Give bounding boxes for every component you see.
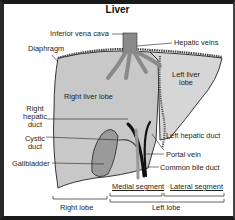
label-left-hepatic-duct: Left hepatic duct bbox=[166, 132, 220, 140]
label-left-liver-lobe: Left liver lobe bbox=[168, 71, 204, 87]
label-medial-segment: Medial segment bbox=[112, 183, 164, 191]
label-diaphragm: Diaphragm bbox=[28, 45, 64, 53]
inferior-vena-cava-shape bbox=[123, 33, 137, 53]
label-portal-vein: Portal vein bbox=[166, 151, 201, 159]
label-right-liver-lobe: Right liver lobe bbox=[64, 93, 113, 101]
label-lateral-segment: Lateral segment bbox=[170, 183, 223, 191]
label-left-lobe: Left lobe bbox=[152, 204, 180, 212]
label-gallbladder: Gallbladder bbox=[12, 160, 50, 168]
label-inferior-vena-cava: Inferior vena cava bbox=[50, 30, 109, 38]
label-hepatic-veins: Hepatic veins bbox=[174, 39, 218, 47]
label-right-hepatic-duct: Right hepatic duct bbox=[20, 105, 50, 129]
label-common-bile-duct: Common bile duct bbox=[160, 164, 220, 172]
segment-brackets bbox=[53, 193, 224, 202]
diagram-title: Liver bbox=[0, 4, 235, 15]
label-cystic-duct: Cystic duct bbox=[20, 135, 50, 151]
label-right-lobe: Right lobe bbox=[60, 204, 93, 212]
